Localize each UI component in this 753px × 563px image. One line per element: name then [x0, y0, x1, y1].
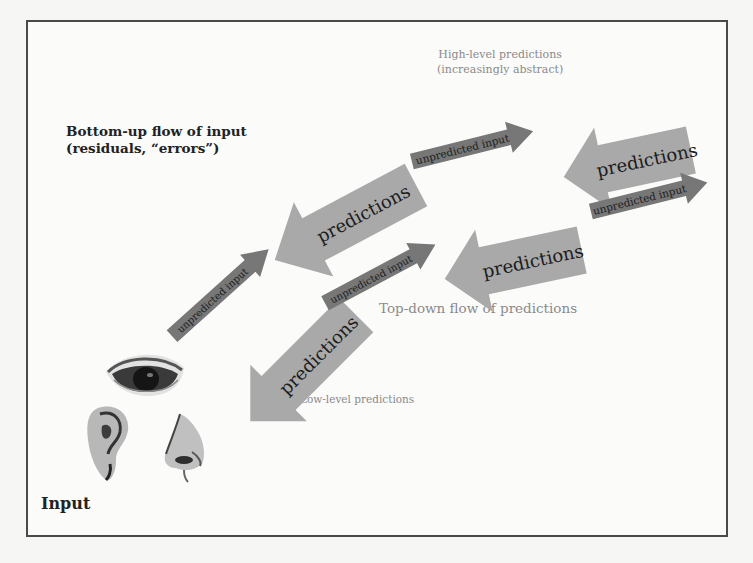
high-level-label: High-level predictions (increasingly abs…: [437, 47, 563, 77]
high-level-label-line1: High-level predictions: [437, 47, 563, 62]
input-label: Input: [41, 495, 90, 512]
nose-icon: [162, 412, 208, 488]
bottom-up-label-line1: Bottom-up flow of input: [66, 123, 247, 140]
ear-icon: [86, 404, 132, 488]
bottom-up-label-line2: (residuals, “errors”): [66, 140, 247, 157]
eye-icon: [104, 350, 188, 406]
bottom-up-label: Bottom-up flow of input (residuals, “err…: [66, 123, 247, 157]
high-level-label-line2: (increasingly abstract): [437, 62, 563, 77]
